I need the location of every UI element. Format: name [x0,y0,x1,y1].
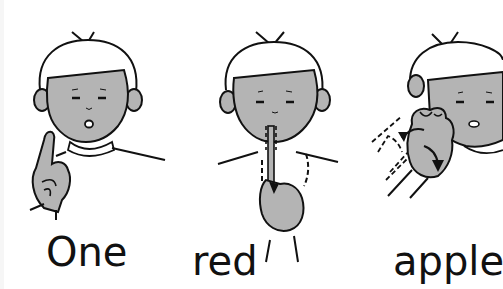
sign-word-red: red [192,241,258,281]
sign-panel-apple: apple [340,0,503,289]
sign-word-one: One [46,232,127,272]
sign-panel-one: One [0,0,170,289]
sign-panel-red: red [170,0,340,289]
sign-word-apple: apple [393,241,503,281]
